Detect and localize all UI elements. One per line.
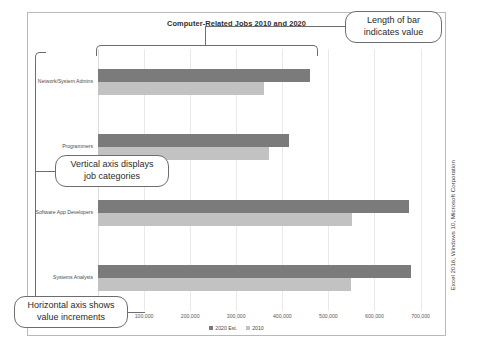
bar-2020Est-SoftwareAppDevelopers[interactable] — [98, 200, 409, 213]
x-tick-label: 100,000 — [135, 313, 154, 319]
bar-group: Network/System Admins — [98, 69, 439, 95]
bar-2010-NetworkSystemAdmins[interactable] — [98, 82, 264, 95]
horizontal-axis-leader — [128, 312, 145, 313]
bar-2010-SystemsAnalysts[interactable] — [98, 278, 351, 291]
vertical-axis-leader — [35, 171, 57, 172]
callout-horizontal-axis-line1: Horizontal axis shows — [21, 300, 121, 312]
vertical-axis-bracket — [35, 52, 46, 304]
length-of-bar-leader-vertical — [205, 26, 206, 46]
category-label: Programmers — [0, 143, 93, 149]
x-tick-label: 600,000 — [365, 313, 384, 319]
legend-item[interactable]: 2020 Est. — [209, 325, 237, 331]
bar-group: Software App Developers — [98, 200, 439, 226]
callout-length-of-bar-line2: indicates value — [352, 27, 435, 39]
callout-vertical-axis-line1: Vertical axis displays — [62, 159, 162, 171]
callout-vertical-axis: Vertical axis displays job categories — [55, 155, 169, 187]
x-tick-label: 500,000 — [319, 313, 338, 319]
bar-group: Systems Analysts — [98, 265, 439, 291]
x-tick-label: 200,000 — [181, 313, 200, 319]
x-tick-label: 400,000 — [273, 313, 292, 319]
callout-length-of-bar: Length of bar indicates value — [345, 11, 442, 43]
category-label: Software App Developers — [0, 209, 93, 215]
length-of-bar-leader-horizontal — [205, 26, 347, 27]
callout-length-of-bar-line1: Length of bar — [352, 15, 435, 27]
source-caption: Excel 2016, Windows 10, Microsoft Corpor… — [449, 160, 456, 290]
length-of-bar-bracket — [96, 45, 318, 56]
legend-swatch-icon — [246, 326, 250, 330]
legend-label: 2010 — [252, 325, 264, 331]
bar-2020Est-Programmers[interactable] — [98, 134, 289, 147]
x-tick-label: 700,000 — [411, 313, 430, 319]
category-label: Systems Analysts — [0, 274, 93, 280]
x-tick-label: 300,000 — [227, 313, 246, 319]
legend-swatch-icon — [209, 326, 213, 330]
bar-2010-SoftwareAppDevelopers[interactable] — [98, 213, 352, 226]
callout-vertical-axis-line2: job categories — [62, 171, 162, 183]
bar-2020Est-NetworkSystemAdmins[interactable] — [98, 69, 310, 82]
callout-horizontal-axis: Horizontal axis shows value increments — [14, 296, 128, 328]
horizontal-value-axis: 100,000200,000300,000400,000500,000600,0… — [98, 313, 439, 325]
legend-item[interactable]: 2010 — [246, 325, 264, 331]
callout-horizontal-axis-line2: value increments — [21, 312, 121, 324]
category-label: Network/System Admins — [0, 78, 93, 84]
bar-2020Est-SystemsAnalysts[interactable] — [98, 265, 411, 278]
legend-label: 2020 Est. — [215, 325, 237, 331]
